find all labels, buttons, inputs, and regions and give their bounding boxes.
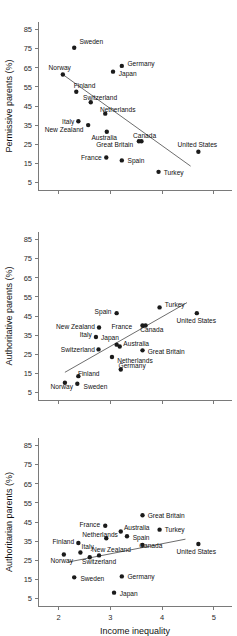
data-point-label: United States xyxy=(177,548,217,555)
scatter-plot-2: 515253545556575852345Great BritainFrance… xyxy=(0,420,237,636)
data-point-label: Australia xyxy=(123,340,149,347)
y-tick-label: 55 xyxy=(24,293,32,302)
data-point-label: Germany xyxy=(119,362,147,370)
y-tick-label: 15 xyxy=(24,369,32,378)
data-point-label: Turkey xyxy=(164,169,185,177)
data-point-label: Great Britain xyxy=(96,141,133,148)
data-point xyxy=(119,529,123,533)
y-tick-label: 5 xyxy=(28,594,32,603)
y-tick-label: 75 xyxy=(24,254,32,263)
y-tick-label: 75 xyxy=(24,44,32,53)
data-point xyxy=(111,69,115,73)
data-point-label: New Zealand xyxy=(56,323,95,330)
data-point xyxy=(137,139,141,143)
data-point-label: Sweden xyxy=(84,383,108,390)
data-point-label: Sweden xyxy=(80,575,104,582)
y-tick-label: 45 xyxy=(24,102,32,111)
data-point-label: Spain xyxy=(133,534,150,542)
data-point xyxy=(120,64,124,68)
data-point-label: Switzerland xyxy=(82,558,116,565)
data-point-label: Canada xyxy=(140,326,163,333)
y-axis-title: Permissive parents (%) xyxy=(4,59,14,152)
data-point xyxy=(78,550,82,554)
data-point-label: Japan xyxy=(101,334,119,342)
y-tick-label: 55 xyxy=(24,83,32,92)
data-point-label: France xyxy=(80,521,101,528)
data-point-label: United States xyxy=(178,141,218,148)
data-point xyxy=(140,513,144,517)
y-tick-label: 85 xyxy=(24,25,32,34)
y-tick-label: 5 xyxy=(28,388,32,397)
data-point xyxy=(97,325,101,329)
y-tick-label: 15 xyxy=(24,159,32,168)
data-point xyxy=(195,311,199,315)
data-point xyxy=(75,382,79,386)
y-axis-title: Authoritative parents (%) xyxy=(4,266,14,365)
y-tick-label: 45 xyxy=(24,312,32,321)
data-point-label: Spain xyxy=(127,157,144,165)
data-point-label: New Zealand xyxy=(45,126,84,133)
data-point-label: Italy xyxy=(80,331,93,339)
x-tick-label: 5 xyxy=(212,613,216,622)
data-point xyxy=(114,311,118,315)
y-tick-label: 65 xyxy=(24,480,32,489)
data-point xyxy=(96,347,100,351)
y-tick-label: 55 xyxy=(24,499,32,508)
data-point-label: Norway xyxy=(51,557,74,565)
data-point-label: Switzerland xyxy=(83,94,117,101)
data-point xyxy=(125,534,129,538)
data-point xyxy=(120,158,124,162)
data-point-label: Spain xyxy=(95,308,112,316)
data-point-label: New Zealand xyxy=(92,546,131,553)
y-tick-label: 45 xyxy=(24,518,32,527)
y-tick-label: 5 xyxy=(28,178,32,187)
data-point-label: France xyxy=(81,154,102,161)
data-point-label: Canada xyxy=(133,132,156,139)
x-tick-label: 4 xyxy=(160,613,164,622)
data-point xyxy=(112,590,116,594)
data-point-label: Great Britain xyxy=(148,348,185,355)
data-point xyxy=(76,541,80,545)
panel-authoritarian-parents: 515253545556575852345Great BritainFrance… xyxy=(0,420,237,636)
data-point xyxy=(157,305,161,309)
data-point xyxy=(94,335,98,339)
data-point-label: Norway xyxy=(49,64,72,72)
panel-permissive-parents: 51525354555657585SwedenNorwayGermanyJapa… xyxy=(0,0,237,212)
data-point xyxy=(76,119,80,123)
data-point xyxy=(196,542,200,546)
data-point xyxy=(103,524,107,528)
y-tick-label: 25 xyxy=(24,556,32,565)
y-tick-label: 35 xyxy=(24,121,32,130)
y-tick-label: 65 xyxy=(24,64,32,73)
data-point xyxy=(118,344,122,348)
data-point-label: Canada xyxy=(139,542,162,549)
data-point xyxy=(110,355,114,359)
panel-authoritative-parents: 51525354555657585TurkeyUnited StatesSpai… xyxy=(0,212,237,420)
y-tick-label: 35 xyxy=(24,537,32,546)
data-point-label: United States xyxy=(177,317,217,324)
y-tick-label: 85 xyxy=(24,235,32,244)
data-point-label: Turkey xyxy=(165,526,186,534)
data-point-label: Germany xyxy=(127,573,155,581)
data-point xyxy=(72,46,76,50)
data-point-label: Finland xyxy=(74,82,96,89)
data-point-label: Finland xyxy=(53,538,75,545)
y-tick-label: 35 xyxy=(24,331,32,340)
data-point-label: Turkey xyxy=(165,301,186,309)
data-point-label: Australia xyxy=(124,524,150,531)
data-point-label: Netherlands xyxy=(82,531,118,538)
data-point xyxy=(86,123,90,127)
data-point xyxy=(196,150,200,154)
data-point xyxy=(120,574,124,578)
data-point-label: Japan xyxy=(120,590,138,598)
data-point xyxy=(157,527,161,531)
x-axis-title: Income inequality xyxy=(100,626,171,636)
data-point xyxy=(156,170,160,174)
scatter-plot-1: 51525354555657585TurkeyUnited StatesSpai… xyxy=(0,212,237,420)
y-tick-label: 15 xyxy=(24,575,32,584)
y-tick-label: 25 xyxy=(24,140,32,149)
data-point-label: Finland xyxy=(78,370,100,377)
y-tick-label: 65 xyxy=(24,274,32,283)
data-point-label: Sweden xyxy=(79,38,103,45)
x-tick-label: 3 xyxy=(108,613,112,622)
